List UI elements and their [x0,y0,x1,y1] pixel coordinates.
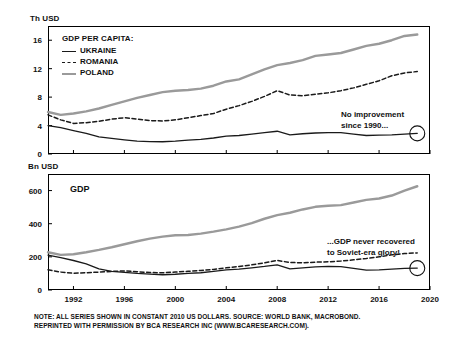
legend-key-solid-icon [62,47,76,55]
bottom-annotation-line1: ...GDP never recovered [327,237,415,248]
gdp-xtick-label: 2020 [421,295,439,304]
gdp-xtick-label: 2000 [166,295,184,304]
gdp-per-capita-chart: Th USD GDP PER CAPITA: UKRAINE ROMANIA P… [0,0,453,165]
top-chart-annotation: No improvement since 1990... [341,110,404,131]
top-chart-plot [0,0,453,165]
top-annotation-line1: No improvement [341,110,404,121]
bottom-annotation-line2: to Soviet-era glory! [327,248,415,259]
legend-item-ukraine: UKRAINE [62,45,133,56]
gdp-chart: Bn USD GDP ...GDP never recovered to Sov… [0,160,453,310]
legend-item-poland: POLAND [62,67,133,78]
gdp-ytick-label: 0 [14,286,42,295]
legend-title: GDP PER CAPITA: [62,33,133,44]
gdp-per-capita-ytick-label: 12 [14,64,42,73]
gdp-per-capita-ytick-label: 4 [14,121,42,130]
gdp-ytick-label: 200 [14,252,42,261]
gdp-ytick-label: 600 [14,186,42,195]
gdp-xtick-label: 2016 [370,295,388,304]
gdp-xtick-label: 1996 [115,295,133,304]
gdp-xtick-label: 2012 [319,295,337,304]
footnote-line-2: REPRINTED WITH PERMISSION BY BCA RESEARC… [34,322,434,331]
gdp-xtick-label: 2004 [217,295,235,304]
legend-label-poland: POLAND [80,67,114,78]
legend-label-romania: ROMANIA [80,56,118,67]
footnote-line-1: NOTE: ALL SERIES SHOWN IN CONSTANT 2010 … [34,313,434,322]
legend-key-gray-icon [62,69,76,77]
gdp-per-capita-ytick-label: 16 [14,36,42,45]
bottom-chart-plot [0,160,453,310]
gdp-per-capita-ytick-label: 8 [14,93,42,102]
chart-footnote: NOTE: ALL SERIES SHOWN IN CONSTANT 2010 … [34,313,434,330]
bottom-chart-annotation: ...GDP never recovered to Soviet-era glo… [327,237,415,258]
gdp-per-capita-legend: GDP PER CAPITA: UKRAINE ROMANIA POLAND [62,33,133,78]
legend-item-romania: ROMANIA [62,56,133,67]
legend-key-dashed-icon [62,58,76,66]
gdp-ytick-label: 400 [14,219,42,228]
gdp-xtick-label: 2008 [268,295,286,304]
gdp-xtick-label: 1992 [65,295,83,304]
gdp-per-capita-ytick-label: 0 [14,150,42,159]
gdp-panel-title: GDP [70,184,90,194]
legend-label-ukraine: UKRAINE [80,45,116,56]
top-annotation-line2: since 1990... [341,121,404,132]
